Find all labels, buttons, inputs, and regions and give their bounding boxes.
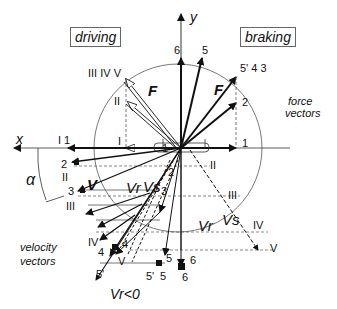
velocity-caption-2: vectors (20, 256, 55, 267)
vel-label-Vb: V (270, 243, 277, 254)
y-axis-label: y (190, 10, 197, 24)
velocity-symbol-v: V (87, 177, 97, 192)
force-caption-1: force (288, 96, 312, 107)
velocity-symbol-vs-right: Vs (222, 212, 240, 227)
force-label-group: 5' 4 3 (240, 63, 267, 74)
vel-label-1: 1 (162, 143, 168, 154)
vel-label-4b: 4 (122, 239, 128, 250)
velocity-symbol-vr-left: Vr (126, 180, 141, 195)
velocity-symbol-vs-left: Vs (143, 179, 161, 194)
vel-label-IIIb: III (228, 190, 237, 201)
alpha-arc (38, 148, 64, 202)
vel-label-IIb: II (210, 160, 216, 171)
vel-label-V: V (118, 256, 125, 267)
driving-title: driving (70, 27, 121, 47)
braking-force-vectors (181, 58, 236, 148)
vel-label-6b: 6 (182, 272, 188, 283)
force-label-II: II (114, 96, 120, 107)
force-label-III-IV-V: III IV V (88, 68, 121, 79)
vel-label-5p: 5' (146, 271, 154, 282)
vel-label-2b: 2 (168, 167, 174, 178)
vr-negative-note: Vr<0 (110, 287, 140, 301)
force-label-I: I (118, 136, 121, 147)
velocity-caption-1: velocity (20, 242, 57, 253)
vel-label-III: III (66, 201, 75, 212)
force-symbol-right: F (214, 82, 223, 97)
force-caption-2: vectors (285, 108, 320, 119)
driving-force-vectors (68, 79, 181, 150)
vel-label-2: 2 (61, 159, 67, 170)
axes (14, 14, 290, 250)
velocity-symbol-vr-right: Vr (198, 218, 213, 233)
force-label-I-1: I 1 (58, 135, 70, 146)
braking-title: braking (240, 27, 296, 47)
force-label-1: 1 (242, 138, 248, 149)
velocity-solid-lines (80, 190, 165, 263)
vel-label-IVb: IV (253, 220, 263, 231)
vel-label-5b: 5 (166, 253, 172, 264)
vel-label-6a: 6 (190, 255, 196, 266)
force-label-2: 2 (242, 97, 248, 108)
vel-label-4a: 4 (98, 247, 104, 258)
force-label-6: 6 (174, 45, 180, 56)
x-axis-label: x (16, 132, 23, 146)
vel-label-3: 3 (68, 186, 74, 197)
vel-label-II: II (62, 172, 68, 183)
alpha-label: α (26, 172, 35, 188)
force-label-5: 5 (202, 45, 208, 56)
vel-label-IV: IV (88, 237, 98, 248)
force-symbol-left: F (148, 83, 157, 98)
vel-label-5p-left: 5' (96, 269, 104, 280)
vel-label-3b: 3 (161, 186, 167, 197)
vel-label-5: 5 (160, 271, 166, 282)
